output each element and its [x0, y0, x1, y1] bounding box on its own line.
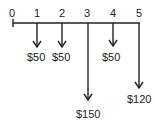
cash-flow-diagram: 0 1 2 3 4 5 $50 $50 $150 $50 $120 [0, 0, 155, 124]
cash-flow-amount-4: $50 [102, 51, 120, 63]
period-label-5: 5 [136, 7, 142, 19]
cash-flow-arrow-1 [33, 23, 41, 47]
period-label-1: 1 [34, 7, 40, 19]
cash-flow-arrow-5 [135, 23, 143, 88]
cash-flow-amount-2: $50 [52, 51, 70, 63]
cash-flow-amount-1: $50 [27, 51, 45, 63]
cash-flow-arrow-2 [58, 23, 66, 47]
period-label-4: 4 [110, 7, 116, 19]
cash-flow-amount-3: $150 [76, 108, 100, 120]
period-label-2: 2 [59, 7, 65, 19]
cash-flow-amount-5: $120 [127, 93, 151, 105]
period-label-3: 3 [84, 7, 90, 19]
period-label-0: 0 [9, 7, 15, 19]
cash-flow-arrow-4 [109, 23, 117, 46]
cash-flow-arrow-3 [84, 23, 92, 100]
